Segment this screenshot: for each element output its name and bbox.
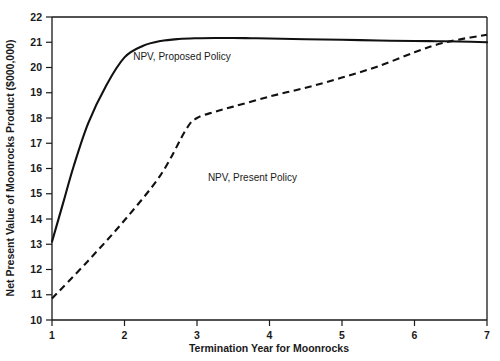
series-label-proposed-policy: NPV, Proposed Policy (133, 51, 230, 62)
y-tick-label: 19 (30, 86, 42, 98)
y-tick-label: 10 (30, 314, 42, 326)
y-tick-label: 21 (30, 36, 42, 48)
y-tick-label: 13 (30, 238, 42, 250)
y-tick-label: 20 (30, 61, 42, 73)
x-tick-label: 5 (339, 329, 345, 341)
x-tick-label: 3 (194, 329, 200, 341)
npv-line-chart: 10111213141516171819202122 1234567 NPV, … (0, 0, 500, 361)
y-tick-label: 11 (31, 288, 42, 300)
x-tick-label: 7 (484, 329, 490, 341)
x-axis-title: Termination Year for Moonrocks (189, 342, 349, 354)
x-tick-label: 4 (267, 329, 273, 341)
x-tick-label: 6 (412, 329, 418, 341)
y-tick-label: 17 (30, 137, 42, 149)
y-axis-title: Net Present Value of Moonrocks Product (… (4, 40, 16, 297)
y-tick-label: 16 (30, 162, 42, 174)
chart-page: 10111213141516171819202122 1234567 NPV, … (0, 0, 500, 361)
x-tick-label: 1 (49, 329, 55, 341)
series-label-present-policy: NPV, Present Policy (208, 172, 297, 183)
y-tick-label: 18 (30, 112, 42, 124)
y-tick-label: 12 (30, 263, 42, 275)
y-tick-label: 22 (30, 11, 42, 23)
y-tick-label: 15 (30, 187, 42, 199)
x-tick-label: 2 (122, 329, 128, 341)
y-tick-label: 14 (30, 213, 42, 225)
